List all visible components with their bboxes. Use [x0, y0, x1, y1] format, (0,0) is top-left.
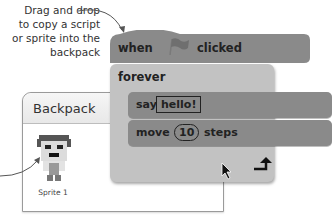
annotation-arrows	[0, 0, 336, 220]
